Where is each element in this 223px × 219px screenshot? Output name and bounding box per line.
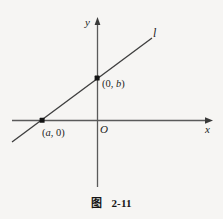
point-label-x-intercept: (a, 0): [42, 128, 65, 139]
figure-background: [0, 0, 223, 219]
x-axis-label: x: [205, 124, 210, 135]
point-marker-y-intercept: [95, 76, 100, 81]
point-label-y-intercept-open: (0,: [102, 78, 116, 89]
coordinate-plane-drawing: [0, 0, 223, 219]
point-marker-x-intercept: [40, 118, 45, 123]
point-label-x-intercept-close: , 0): [51, 127, 65, 138]
y-axis-label: y: [85, 17, 90, 28]
figure-caption: 图2-11: [0, 194, 223, 210]
origin-label: O: [100, 124, 108, 135]
line-l-label: l: [153, 27, 156, 39]
point-label-y-intercept: (0, b): [102, 79, 125, 90]
figure-container: y x l O (0, b) (a, 0) 图2-11: [0, 0, 223, 219]
point-label-y-intercept-close: ): [121, 78, 125, 89]
figure-caption-prefix: 图: [91, 197, 102, 209]
figure-caption-number: 2-11: [111, 197, 131, 209]
